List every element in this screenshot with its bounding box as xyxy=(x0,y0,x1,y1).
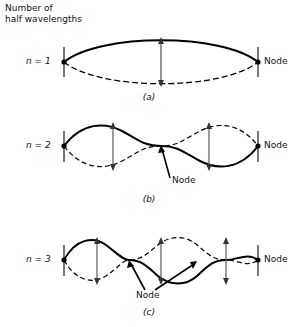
panel-b-node-leader-line xyxy=(162,149,170,178)
panel-b-n-label: n = 2 xyxy=(26,140,51,150)
panel-b-amplitude-arrow-head-down-1 xyxy=(110,164,116,171)
panel-c-graphic xyxy=(61,237,260,290)
panel-a-node-dot-left xyxy=(61,59,66,64)
panel-c-node-dot-right xyxy=(255,257,260,262)
panel-c-amplitude-arrow-head-up-3 xyxy=(223,237,229,244)
standing-wave-figure: Number of half wavelengths n = 1 Node (a… xyxy=(0,0,297,327)
wave-drawing-canvas xyxy=(0,0,297,327)
panel-b-amplitude-arrow-head-up-1 xyxy=(110,122,116,129)
panel-b-interior-node-label: Node xyxy=(172,175,196,185)
panel-c-right-node-label: Node xyxy=(264,254,288,264)
panel-b-caption: (b) xyxy=(129,194,169,204)
panel-b-node-dot-right xyxy=(255,143,260,148)
panel-a-graphic xyxy=(61,37,260,87)
panel-c-caption: (c) xyxy=(129,307,169,317)
panel-c-node-leader-line-1 xyxy=(131,264,145,290)
panel-c-node-leader-arrowhead-2 xyxy=(190,261,197,269)
panel-c-amplitude-arrow-head-down-3 xyxy=(223,278,229,285)
panel-c-node-dot-left xyxy=(61,257,66,262)
panel-b-right-node-label: Node xyxy=(264,140,288,150)
panel-b-amplitude-arrow-head-down-2 xyxy=(206,164,212,171)
panel-b-graphic xyxy=(61,122,260,178)
panel-a-node-dot-right xyxy=(255,59,260,64)
panel-b-node-dot-left xyxy=(61,143,66,148)
panel-c-amplitude-arrow-head-up-2 xyxy=(158,237,164,244)
panel-c-amplitude-arrow-head-down-1 xyxy=(94,278,100,285)
panel-b-amplitude-arrow-head-up-2 xyxy=(206,122,212,129)
panel-c-interior-node-label: Node xyxy=(136,290,160,300)
panel-c-n-label: n = 3 xyxy=(26,254,51,264)
